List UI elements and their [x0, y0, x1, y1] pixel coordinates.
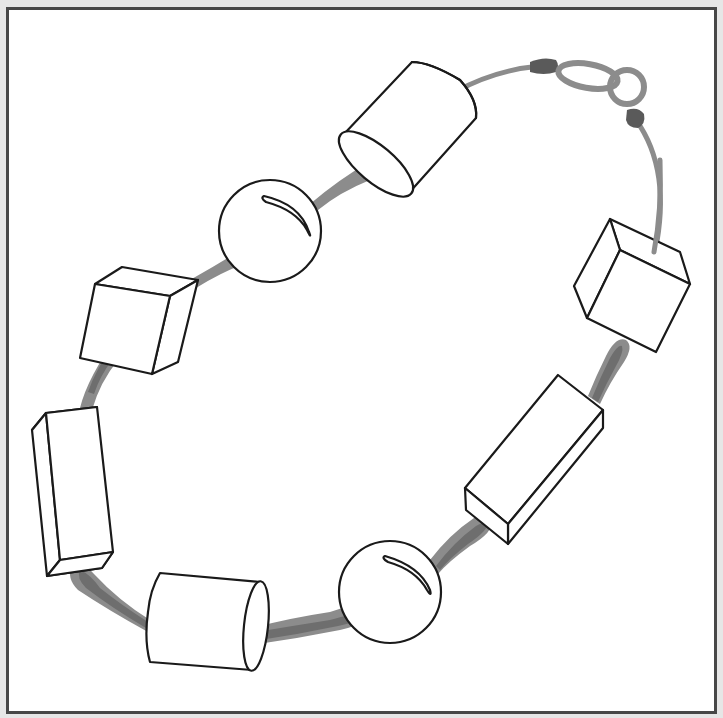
bead-cube-right [574, 219, 690, 352]
bead-cylinder-bottom [146, 573, 272, 672]
bead-cube-left [80, 267, 198, 374]
bead-prism-right [465, 375, 603, 544]
bracelet-illustration [0, 0, 723, 718]
clasp [530, 58, 644, 128]
bead-sphere-bottom [339, 541, 441, 643]
bead-prism-left [32, 407, 113, 576]
bead-sphere-upper [219, 180, 321, 282]
crimp-bead-right [626, 109, 644, 128]
crimp-bead-left [530, 58, 558, 74]
